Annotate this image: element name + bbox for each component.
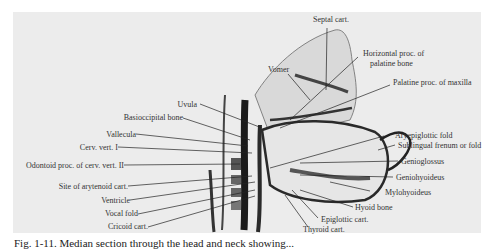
label-hyoid-bone: Hyoid bone [355, 203, 393, 212]
label-geniohyoideus: Geniohyoideus [396, 173, 444, 182]
label-arytenoid-site: Site of arytenoid cart. [59, 182, 128, 191]
label-horizontal-proc-1: Horizontal proc. of [363, 49, 424, 58]
label-uvula: Uvula [177, 100, 197, 109]
label-sublingual-frenum: Sublingual frenum or fold [398, 141, 481, 150]
label-vocal-fold: Vocal fold [105, 209, 138, 218]
label-septal-cart: Septal cart. [313, 15, 349, 24]
label-ventricle: Ventricle [101, 196, 130, 205]
figure-caption: Fig. 1-11. Median section through the he… [14, 237, 484, 250]
label-basioccipital-bone: Basioccipital bone [124, 113, 183, 122]
label-aryepiglottic-fold: Aryepiglottic fold [395, 131, 453, 140]
label-vallecula: Vallecula [106, 130, 136, 139]
label-vomer: Vomer [268, 65, 289, 74]
label-odontoid-proc: Odontoid proc. of cerv. vert. II [26, 161, 124, 170]
label-genioglossus: Genioglossus [401, 157, 444, 166]
label-palatine-proc: Palatine proc. of maxilla [393, 78, 472, 87]
label-epiglottic-cart: Epiglottic cart. [321, 215, 369, 224]
label-cricoid-cart: Cricoid cart. [108, 222, 148, 231]
label-horizontal-proc-2: palatine bone [370, 59, 413, 68]
label-mylohyoideus: Mylohyoideus [385, 188, 431, 197]
label-cerv-vert-1: Cerv. vert. I [80, 143, 118, 152]
label-thyroid-cart: Thyroid cart. [303, 225, 345, 234]
